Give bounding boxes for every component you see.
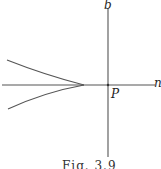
point-p-marker — [107, 84, 109, 86]
cusp-diagram — [0, 0, 161, 169]
horizontal-axis-label: n — [154, 77, 161, 89]
cusp-upper-branch — [7, 60, 84, 85]
cusp-lower-branch — [8, 85, 84, 109]
point-p-label: P — [111, 88, 119, 100]
figure-caption: Fig. 3.9 — [62, 160, 117, 169]
vertical-axis-label: b — [104, 0, 112, 11]
